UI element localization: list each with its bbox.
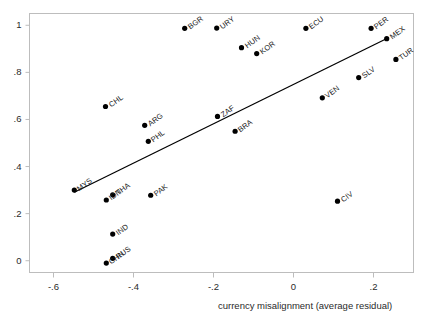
data-point-marker [104,197,109,202]
data-point-marker [148,193,153,198]
x-tick-label: -.4 [114,282,154,292]
y-tick-label: .6 [0,114,22,124]
y-tick-label: .4 [0,162,22,172]
data-point-marker [142,123,147,128]
data-point-marker [182,26,187,31]
data-point-marker [233,129,238,134]
data-point-marker [103,104,108,109]
y-axis-tick-marks [26,25,30,260]
trend-line [74,38,388,192]
data-point-marker [110,232,115,237]
y-tick-label: 1 [0,20,22,30]
data-point-marker [393,57,398,62]
x-axis-title: currency misalignment (average residual) [218,301,392,311]
y-tick-label: .2 [0,209,22,219]
data-point-marker [254,51,259,56]
x-axis-tick-marks [54,273,374,278]
scatter-plot-figure: 0.2.4.6.81 -.6-.4-.20.2 MYSCHLIDNTHAINDC… [0,0,434,327]
data-point-marker [369,26,374,31]
x-tick-label: -.6 [34,282,74,292]
data-point-marker [214,25,219,30]
data-point-marker [303,26,308,31]
plot-canvas [0,0,434,327]
data-point-marker [320,95,325,100]
data-point-marker [215,114,220,119]
data-point-marker [239,45,244,50]
plot-frame [30,14,414,273]
y-tick-label: 0 [0,256,22,266]
data-point-marker [335,199,340,204]
data-point-marker [356,75,361,80]
y-tick-label: .8 [0,67,22,77]
x-tick-label: 0 [274,282,314,292]
x-tick-label: .2 [354,282,394,292]
data-point-marker [384,36,389,41]
x-tick-label: -.2 [194,282,234,292]
